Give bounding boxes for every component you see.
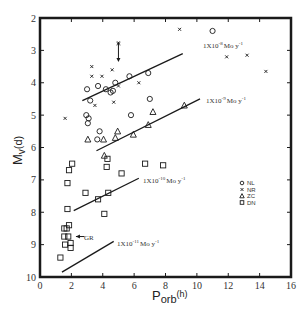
plot-border bbox=[40, 18, 291, 277]
x-marker bbox=[93, 104, 96, 107]
legend-label-dn: DN bbox=[247, 200, 256, 206]
triangle-marker bbox=[115, 128, 121, 134]
gr-label: GR bbox=[84, 234, 94, 242]
circle-marker bbox=[128, 113, 133, 118]
square-marker bbox=[58, 255, 63, 260]
x-marker bbox=[264, 70, 267, 73]
y-tick-label: 7 bbox=[31, 174, 36, 185]
y-tick-label: 2 bbox=[31, 13, 36, 24]
legend-label-nr: NR bbox=[247, 187, 256, 193]
scatter-chart: 02468101214162345678910 NLNRZCDN Porb(h)… bbox=[0, 0, 307, 313]
x-marker bbox=[64, 117, 67, 120]
square-marker bbox=[161, 163, 166, 168]
square-marker bbox=[62, 234, 67, 239]
circle-marker bbox=[95, 137, 100, 142]
x-marker bbox=[246, 54, 249, 57]
circle-marker bbox=[95, 83, 100, 88]
accretion-rate-line bbox=[82, 54, 182, 101]
triangle-marker bbox=[112, 135, 118, 141]
x-tick-label: 12 bbox=[223, 280, 233, 291]
square-marker bbox=[83, 190, 88, 195]
square-marker bbox=[66, 168, 71, 173]
square-marker bbox=[70, 161, 75, 166]
circle-marker bbox=[97, 129, 102, 134]
x-marker bbox=[225, 55, 228, 58]
circle-marker bbox=[84, 87, 89, 92]
square-marker bbox=[65, 181, 70, 186]
square-marker bbox=[119, 171, 124, 176]
rate-label-1e-8: 1X10-8Mo y-1 bbox=[203, 41, 243, 50]
triangle-marker bbox=[101, 152, 107, 158]
y-tick-label: 5 bbox=[31, 110, 36, 121]
y-tick-label: 10 bbox=[26, 272, 36, 283]
axis-ticks: 02468101214162345678910 bbox=[26, 13, 296, 292]
x-marker bbox=[90, 65, 93, 68]
x-marker bbox=[100, 75, 103, 78]
x-marker bbox=[178, 28, 181, 31]
x-marker bbox=[117, 84, 120, 87]
accretion-rate-line bbox=[74, 178, 139, 210]
circle-marker bbox=[88, 98, 93, 103]
rate-label-1e-11: 1X10-11Mo y-1 bbox=[117, 239, 160, 248]
y-tick-label: 4 bbox=[31, 77, 36, 88]
x-marker bbox=[137, 81, 140, 84]
x-tick-label: 2 bbox=[69, 280, 74, 291]
circle-marker bbox=[240, 181, 244, 185]
x-tick-label: 14 bbox=[255, 280, 265, 291]
x-marker bbox=[90, 75, 93, 78]
y-tick-label: 6 bbox=[31, 142, 36, 153]
square-marker bbox=[143, 161, 148, 166]
down-arrowhead bbox=[116, 58, 120, 62]
x-tick-label: 8 bbox=[163, 280, 168, 291]
square-marker bbox=[65, 206, 70, 211]
x-tick-label: 10 bbox=[192, 280, 202, 291]
square-marker bbox=[66, 234, 71, 239]
square-marker bbox=[63, 242, 68, 247]
square-marker bbox=[104, 164, 109, 169]
x-marker bbox=[241, 188, 244, 191]
x-tick-label: 6 bbox=[132, 280, 137, 291]
circle-marker bbox=[146, 70, 151, 75]
x-tick-label: 16 bbox=[286, 280, 296, 291]
x-marker bbox=[111, 68, 114, 71]
accretion-rate-line bbox=[96, 99, 200, 151]
square-marker bbox=[240, 201, 244, 205]
x-axis-title: Porb(h) bbox=[152, 288, 188, 305]
square-marker bbox=[102, 211, 107, 216]
legend: NLNRZCDN bbox=[240, 180, 257, 206]
circle-marker bbox=[210, 28, 215, 33]
y-tick-label: 8 bbox=[31, 207, 36, 218]
rate-label-1e-9: 1X10-9Mo y-1 bbox=[206, 96, 246, 105]
triangle-marker bbox=[85, 136, 91, 142]
triangle-marker bbox=[130, 131, 136, 137]
y-tick-label: 9 bbox=[31, 239, 36, 250]
circle-marker bbox=[147, 96, 152, 101]
legend-label-nl: NL bbox=[247, 180, 255, 186]
triangle-marker bbox=[240, 194, 244, 198]
rate-label-1e-10: 1X10-10Mo y-1 bbox=[143, 176, 186, 185]
y-axis-title: Mv(d) bbox=[10, 136, 27, 165]
y-tick-label: 3 bbox=[31, 45, 36, 56]
circle-marker bbox=[85, 121, 90, 126]
triangle-marker bbox=[150, 109, 156, 115]
gr-arrowhead bbox=[76, 235, 80, 239]
triangle-marker bbox=[101, 136, 107, 142]
x-tick-label: 4 bbox=[100, 280, 105, 291]
plot-frame bbox=[40, 18, 291, 277]
square-marker bbox=[105, 156, 110, 161]
legend-label-zc: ZC bbox=[247, 193, 256, 199]
x-tick-label: 0 bbox=[38, 280, 43, 291]
x-marker bbox=[112, 101, 115, 104]
